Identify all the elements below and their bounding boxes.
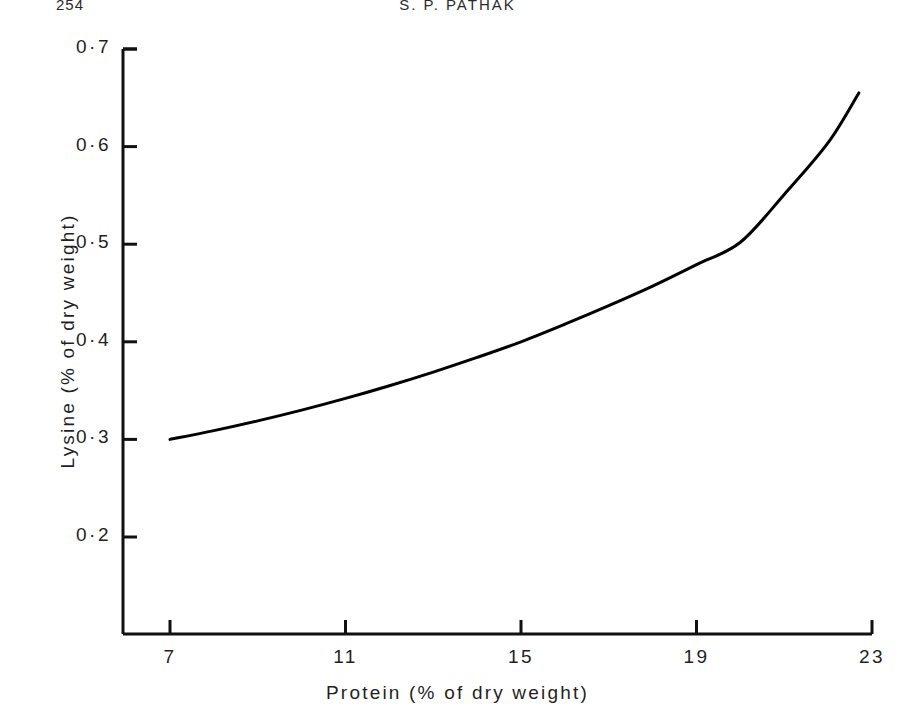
x-tick-label: 15 <box>491 646 551 668</box>
x-axis-title: Protein (% of dry weight) <box>0 682 915 704</box>
data-line-series-0 <box>170 93 859 439</box>
y-axis-title: Lysine (% of dry weight) <box>57 131 79 551</box>
data-series-layer <box>170 93 859 439</box>
x-tick-label: 7 <box>140 646 200 668</box>
x-tick-label: 11 <box>316 646 376 668</box>
y-tick-label: 0·7 <box>27 36 111 58</box>
x-tick-label: 23 <box>842 646 902 668</box>
x-tick-label: 19 <box>667 646 727 668</box>
figure-lysine-vs-protein: 0·20·30·40·50·60·7 711151923 Protein (% … <box>0 0 915 716</box>
axis-layer <box>123 49 872 634</box>
plot-area <box>0 0 915 716</box>
